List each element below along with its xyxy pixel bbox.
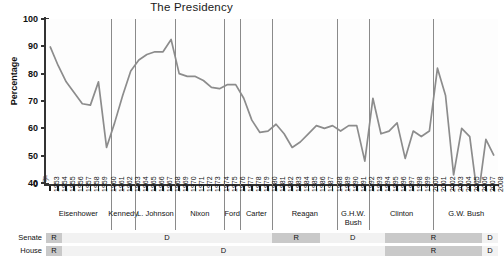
x-tick-1993 [372, 186, 374, 191]
senate-party-letter-2007: D [482, 233, 498, 243]
senate-party-letter-1955: D [62, 233, 272, 243]
president-cell-kennedy: Kennedy [111, 208, 135, 230]
x-tick-1972 [203, 186, 205, 191]
senate-party-letter-1981: R [272, 233, 320, 243]
x-tick-1969 [178, 186, 180, 191]
chart-title: The Presidency [0, 1, 443, 13]
senate-party-letter-1995: R [385, 233, 482, 243]
separator-after-l-johnson [175, 19, 176, 230]
x-tick-1991 [356, 186, 358, 191]
x-tick-1967 [162, 186, 164, 191]
x-tick-1956 [73, 186, 75, 191]
x-tick-2008 [493, 186, 495, 191]
x-tick-1988 [332, 186, 334, 191]
house-party-letter-2007: D [482, 246, 498, 256]
x-tick-1954 [57, 186, 59, 191]
senate-party-letter-1953: R [46, 233, 62, 243]
president-cell-nixon: Nixon [175, 208, 223, 230]
x-tick-1985 [308, 186, 310, 191]
x-tick-1965 [146, 186, 148, 191]
x-tick-1986 [316, 186, 318, 191]
x-tick-1971 [195, 186, 197, 191]
house-party-letter-1995: R [385, 246, 482, 256]
x-tick-2006 [477, 186, 479, 191]
x-tick-1990 [348, 186, 350, 191]
x-tick-1959 [98, 186, 100, 191]
x-tick-2005 [469, 186, 471, 191]
separator-after-clinton [433, 19, 434, 230]
x-tick-2003 [453, 186, 455, 191]
y-tick-label-80: 80 [14, 70, 38, 78]
x-tick-1976 [235, 186, 237, 191]
president-cell-clinton: Clinton [369, 208, 434, 230]
x-tick-1968 [170, 186, 172, 191]
x-tick-1994 [380, 186, 382, 191]
x-tick-1992 [364, 186, 366, 191]
y-tick-label-90: 90 [14, 42, 38, 50]
y-axis-line [44, 17, 46, 185]
x-tick-1957 [82, 186, 84, 191]
x-tick-1953 [49, 186, 51, 191]
x-tick-1970 [186, 186, 188, 191]
president-cell-g-h-w-bush: G.H.W. Bush [337, 208, 369, 230]
house-party-letter-1955: D [62, 246, 385, 256]
x-tick-1984 [299, 186, 301, 191]
x-tick-1955 [65, 186, 67, 191]
x-tick-1958 [90, 186, 92, 191]
separator-after-kennedy [135, 19, 136, 230]
separator-after-eisenhower [111, 19, 112, 230]
x-tick-1962 [122, 186, 124, 191]
y-tick-label-100: 100 [14, 15, 38, 23]
y-axis-label: Percentage [9, 41, 19, 121]
separator-after-ford [240, 19, 241, 230]
x-tick-1961 [114, 186, 116, 191]
x-tick-1966 [154, 186, 156, 191]
y-tick-label-50: 50 [14, 152, 38, 160]
x-tick-1974 [219, 186, 221, 191]
x-tick-1982 [283, 186, 285, 191]
x-tick-1983 [291, 186, 293, 191]
x-tick-2001 [437, 186, 439, 191]
separator-after-carter [272, 19, 273, 230]
x-tick-1979 [259, 186, 261, 191]
x-tick-1987 [324, 186, 326, 191]
x-tick-1977 [243, 186, 245, 191]
separator-after-reagan [337, 19, 338, 230]
x-tick-1995 [388, 186, 390, 191]
x-tick-2004 [461, 186, 463, 191]
president-cell-reagan: Reagan [272, 208, 337, 230]
x-tick-2000 [429, 186, 431, 191]
x-tick-1973 [211, 186, 213, 191]
house-party-letter-1953: R [46, 246, 62, 256]
senate-row-label: Senate [2, 233, 42, 242]
president-cell-g-w-bush: G.W. Bush [433, 208, 498, 230]
x-tick-1989 [340, 186, 342, 191]
x-tick-label-2008: 2008 [497, 176, 504, 192]
x-tick-1978 [251, 186, 253, 191]
x-tick-1998 [412, 186, 414, 191]
y-tick-label-60: 60 [14, 124, 38, 132]
x-tick-2007 [485, 186, 487, 191]
x-tick-1960 [106, 186, 108, 191]
x-tick-1997 [404, 186, 406, 191]
house-row-label: House [2, 246, 42, 255]
president-cell-eisenhower: Eisenhower [46, 208, 111, 230]
y-tick-label-70: 70 [14, 97, 38, 105]
president-cell-l-johnson: L. Johnson [135, 208, 175, 230]
x-tick-1964 [138, 186, 140, 191]
x-tick-2002 [445, 186, 447, 191]
separator-after-g-h-w-bush [369, 19, 370, 230]
president-cell-carter: Carter [240, 208, 272, 230]
x-tick-1981 [275, 186, 277, 191]
x-tick-1996 [396, 186, 398, 191]
y-tick-label-zero: 0 [14, 180, 38, 188]
president-cell-ford: Ford [224, 208, 240, 230]
separator-after-nixon [224, 19, 225, 230]
x-tick-1963 [130, 186, 132, 191]
x-tick-1999 [421, 186, 423, 191]
x-tick-1975 [227, 186, 229, 191]
senate-party-letter-1987: D [320, 233, 385, 243]
x-tick-1980 [267, 186, 269, 191]
